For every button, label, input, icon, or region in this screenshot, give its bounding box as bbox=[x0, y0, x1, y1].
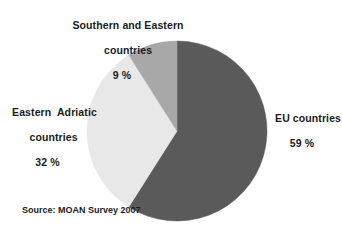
pie-chart: Southern and Eastern countries 9 % Easte… bbox=[0, 0, 342, 236]
pie-label-southern-line2: countries bbox=[104, 44, 152, 56]
pie-label-eu-countries: EU countries 59 % bbox=[262, 99, 342, 175]
pie-label-adriatic-line2: countries bbox=[29, 131, 77, 143]
pie-label-eu-line1: EU countries bbox=[275, 112, 341, 124]
pie-label-southern-percent: 9 % bbox=[38, 69, 206, 82]
source-note: Source: MOAN Survey 2007 bbox=[22, 205, 141, 216]
pie-label-adriatic-percent: 32 % bbox=[0, 156, 95, 169]
pie-label-southern-line1: Southern and Eastern bbox=[72, 19, 183, 31]
pie-label-eastern-adriatic: Eastern Adriatic countries 32 % bbox=[0, 93, 95, 194]
pie-label-adriatic-line1: Eastern Adriatic bbox=[12, 106, 97, 118]
pie-label-southern-and-eastern: Southern and Eastern countries 9 % bbox=[38, 6, 206, 107]
pie-label-eu-percent: 59 % bbox=[262, 137, 342, 150]
